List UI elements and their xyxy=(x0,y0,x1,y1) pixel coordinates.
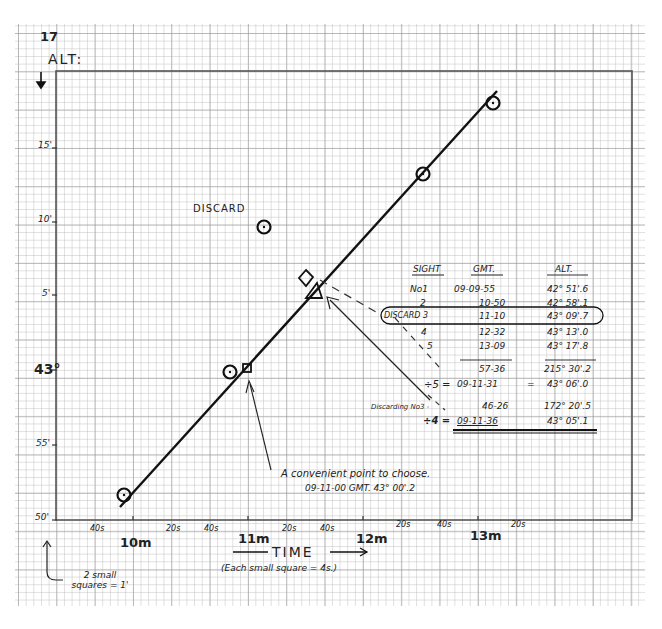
row2-gmt: 10-50 xyxy=(479,298,505,308)
discard-label: DISCARD xyxy=(193,203,245,214)
mean-all-label: ÷5 = xyxy=(424,379,450,390)
row1-alt: 42° 51'.6 xyxy=(547,284,588,294)
page-number: 17 xyxy=(40,29,58,44)
y-tick-5: 5' xyxy=(42,288,50,298)
y-tick-43: 43° xyxy=(34,361,60,377)
y-tick-10: 10' xyxy=(38,214,52,224)
x-axis-note: (Each small square = 4s.) xyxy=(221,563,337,573)
row3-sight: DISCARD 3 xyxy=(384,311,428,320)
header-gmt: GMT. xyxy=(473,264,495,274)
sum-excl-label: Discarding No3 - xyxy=(371,403,429,411)
row5-alt: 43° 17'.8 xyxy=(547,341,588,351)
row5-gmt: 13-09 xyxy=(479,341,505,351)
mean-all-alt: 43° 06'.0 xyxy=(547,379,588,389)
x-tick: 40s xyxy=(437,520,451,529)
row1-gmt: 09-09-55 xyxy=(454,284,495,294)
annotation-line1: A convenient point to choose. xyxy=(281,468,430,479)
best-fit-line xyxy=(120,91,497,507)
mean-all-eq: = xyxy=(527,379,535,389)
row2-alt: 42° 58'.1 xyxy=(547,298,588,308)
mean-excl-label: ÷4 = xyxy=(423,415,450,426)
sum-all-alt: 215° 30'.2 xyxy=(544,364,591,374)
x-tick: 40s xyxy=(204,524,218,533)
x-tick-10m: 10m xyxy=(120,535,152,550)
x-tick-13m: 13m xyxy=(470,528,502,543)
row1-sight: No1 xyxy=(410,284,428,294)
y-axis-title: ALT: xyxy=(48,51,83,67)
annotation-line2: 09-11-00 GMT. 43° 00'.2 xyxy=(305,483,415,493)
arrow-to-square xyxy=(250,384,271,470)
row4-alt: 43° 13'.0 xyxy=(547,327,588,337)
scale-arrow-icon xyxy=(43,541,63,580)
row5-sight: 5 xyxy=(427,341,433,351)
x-tick-12m: 12m xyxy=(356,531,388,546)
sum-all-gmt: 57-36 xyxy=(479,364,505,374)
sum-excl-alt: 172° 20'.5 xyxy=(544,401,591,411)
row3-alt: 43° 09'.7 xyxy=(547,311,588,321)
x-axis-title: TIME xyxy=(272,544,314,560)
row4-sight: 4 xyxy=(421,327,427,337)
mean-excl-alt: 43° 05'.1 xyxy=(547,416,588,426)
y-scale-note: 2 small squares = 1' xyxy=(65,570,135,590)
mean-of-5-diamond-icon xyxy=(299,270,313,286)
x-tick: 40s xyxy=(90,524,104,533)
header-alt: ALT. xyxy=(555,264,573,274)
sum-excl-gmt: 46-26 xyxy=(482,401,508,411)
row2-sight: 2 xyxy=(420,298,426,308)
header-sight: SIGHT xyxy=(413,264,441,274)
mean-excl-gmt: 09-11-36 xyxy=(457,416,498,426)
down-arrow-icon xyxy=(37,72,45,88)
dashed-leader xyxy=(320,280,376,312)
x-tick: 40s xyxy=(320,524,334,533)
y-tick-15: 15' xyxy=(38,140,52,150)
x-tick: 20s xyxy=(511,520,525,529)
x-tick: 20s xyxy=(166,524,180,533)
mean-all-gmt: 09-11-31 xyxy=(457,379,498,389)
y-tick-50: 50' xyxy=(35,512,49,522)
row3-gmt: 11-10 xyxy=(479,311,505,321)
x-tick-11m: 11m xyxy=(238,531,270,546)
x-tick: 20s xyxy=(396,520,410,529)
x-tick: 20s xyxy=(282,524,296,533)
chart-frame xyxy=(56,71,632,520)
y-tick-55: 55' xyxy=(36,438,50,448)
row4-gmt: 12-32 xyxy=(479,327,505,337)
